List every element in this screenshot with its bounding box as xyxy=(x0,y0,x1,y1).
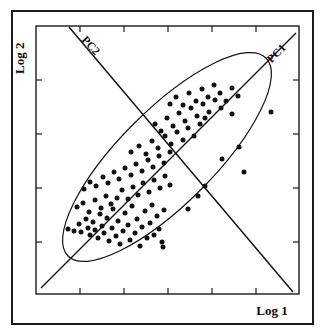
data-point xyxy=(183,119,188,124)
data-point xyxy=(168,150,173,155)
data-point xyxy=(145,236,150,241)
data-point xyxy=(126,223,131,228)
data-point xyxy=(86,226,91,231)
data-point xyxy=(169,142,174,147)
data-point xyxy=(100,224,105,229)
data-point xyxy=(114,234,119,239)
data-point xyxy=(81,201,86,206)
data-point xyxy=(96,236,101,241)
data-point xyxy=(147,190,152,195)
data-point xyxy=(152,233,157,238)
data-point xyxy=(155,214,160,219)
data-point xyxy=(237,145,242,150)
data-point xyxy=(203,184,208,189)
data-point xyxy=(130,204,135,209)
data-point xyxy=(110,226,115,231)
data-point xyxy=(112,170,117,175)
data-point xyxy=(120,188,125,193)
data-point xyxy=(72,229,77,234)
data-point xyxy=(84,217,89,222)
data-point xyxy=(131,185,136,190)
data-point xyxy=(206,95,211,100)
data-point xyxy=(152,178,157,183)
data-point xyxy=(201,102,206,107)
data-point xyxy=(117,177,122,182)
data-point xyxy=(136,193,141,198)
data-point xyxy=(269,110,274,115)
data-point xyxy=(177,111,182,116)
data-point xyxy=(123,211,128,216)
data-point xyxy=(106,181,111,186)
data-point xyxy=(203,116,208,121)
data-point xyxy=(79,230,84,235)
data-point xyxy=(157,154,162,159)
data-point xyxy=(129,173,134,178)
data-point xyxy=(158,186,163,191)
data-point xyxy=(213,98,218,103)
data-point xyxy=(196,194,201,199)
data-point xyxy=(157,227,162,232)
data-point xyxy=(144,152,149,157)
data-point xyxy=(156,146,161,151)
data-point xyxy=(146,158,151,163)
data-point xyxy=(140,169,145,174)
data-point xyxy=(175,130,180,135)
y-axis-title: Log 2 xyxy=(12,43,27,74)
data-point xyxy=(104,194,109,199)
data-point xyxy=(82,187,87,192)
data-point xyxy=(162,161,167,166)
data-point xyxy=(138,244,143,249)
data-point xyxy=(150,203,155,208)
data-point xyxy=(153,122,158,127)
data-point xyxy=(133,231,138,236)
data-point xyxy=(101,175,106,180)
data-point xyxy=(102,231,107,236)
data-point xyxy=(218,91,223,96)
data-point xyxy=(162,208,167,213)
data-point xyxy=(105,216,110,221)
data-point xyxy=(163,174,168,179)
data-point xyxy=(148,221,153,226)
data-point xyxy=(87,210,92,215)
data-point xyxy=(123,166,128,171)
data-point xyxy=(212,83,217,88)
data-point xyxy=(163,134,168,139)
data-point xyxy=(219,106,224,111)
data-point xyxy=(198,122,203,127)
data-point xyxy=(77,222,82,227)
data-point xyxy=(171,124,176,129)
data-point xyxy=(160,240,165,245)
data-point xyxy=(143,209,148,214)
data-point xyxy=(192,134,197,139)
data-point xyxy=(189,106,194,111)
data-point xyxy=(91,220,96,225)
data-point xyxy=(150,139,155,144)
data-point xyxy=(88,233,93,238)
data-point xyxy=(121,229,126,234)
data-point xyxy=(129,150,134,155)
data-point xyxy=(94,184,99,189)
data-point xyxy=(88,180,93,185)
data-point xyxy=(194,99,199,104)
data-point xyxy=(111,207,116,212)
data-point xyxy=(107,239,112,244)
data-point xyxy=(141,181,146,186)
scatter-plot-figure: PC1 PC2 Log 1 Log 2 xyxy=(0,0,325,335)
data-point xyxy=(93,198,98,203)
data-point xyxy=(161,245,166,250)
data-point xyxy=(159,129,164,134)
data-point xyxy=(98,212,103,217)
data-point xyxy=(115,196,120,201)
data-point xyxy=(168,183,173,188)
data-point xyxy=(207,110,212,115)
data-point xyxy=(181,103,186,108)
data-point xyxy=(151,165,156,170)
data-point xyxy=(118,242,123,247)
data-point xyxy=(135,217,140,222)
data-point xyxy=(93,228,98,233)
data-point xyxy=(174,95,179,100)
data-point xyxy=(99,206,104,211)
data-point xyxy=(165,116,170,121)
data-point xyxy=(134,162,139,167)
data-point xyxy=(75,205,80,210)
